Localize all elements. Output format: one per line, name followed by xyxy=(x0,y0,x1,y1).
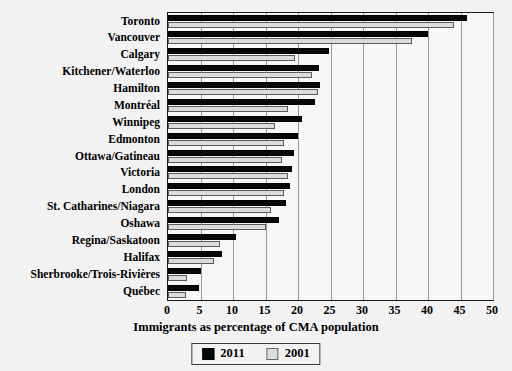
bar-2011-sherbrooke-trois-rivi-res xyxy=(168,268,201,274)
bar-rows xyxy=(168,13,493,300)
x-tick-label: 0 xyxy=(164,303,170,317)
category-label: Ottawa/Gatineau xyxy=(75,150,160,162)
x-axis-title: Immigrants as percentage of CMA populati… xyxy=(0,320,512,335)
bar-2011-montr-al xyxy=(168,99,315,105)
category-label: Québec xyxy=(123,285,160,297)
legend-entry-2001: 2001 xyxy=(267,346,310,361)
category-label: Sherbrooke/Trois-Rivières xyxy=(31,268,160,280)
x-tick-label: 35 xyxy=(389,303,401,317)
bar-2001-halifax xyxy=(168,258,214,264)
bar-2011-toronto xyxy=(168,15,467,21)
bar-2011-hamilton xyxy=(168,82,320,88)
category-label: Kitchener/Waterloo xyxy=(62,65,160,77)
bar-2011-edmonton xyxy=(168,133,298,139)
bar-2011-vancouver xyxy=(168,31,428,37)
category-label: Regina/Saskatoon xyxy=(72,234,160,246)
x-tick-label: 10 xyxy=(226,303,238,317)
category-label: Halifax xyxy=(124,251,160,263)
x-tick-label: 45 xyxy=(454,303,466,317)
legend-entry-2011: 2011 xyxy=(202,346,244,361)
bar-2011-oshawa xyxy=(168,217,279,223)
legend-label-2011: 2011 xyxy=(220,346,244,361)
x-tick-label: 50 xyxy=(486,303,498,317)
category-label: Hamilton xyxy=(113,82,160,94)
bar-2001-st-catharines-niagara xyxy=(168,207,271,213)
category-axis-labels: TorontoVancouverCalgaryKitchener/Waterlo… xyxy=(0,12,164,301)
category-label: Montréal xyxy=(114,99,160,111)
bar-2001-winnipeg xyxy=(168,123,275,129)
chart-figure: TorontoVancouverCalgaryKitchener/Waterlo… xyxy=(0,0,512,371)
bar-2001-montr-al xyxy=(168,106,288,112)
bar-2011-st-catharines-niagara xyxy=(168,200,286,206)
bar-2011-halifax xyxy=(168,251,222,257)
legend-label-2001: 2001 xyxy=(285,346,310,361)
bar-2011-victoria xyxy=(168,166,292,172)
x-tick-label: 15 xyxy=(259,303,271,317)
gridline xyxy=(493,13,494,300)
bar-2011-calgary xyxy=(168,48,329,54)
bar-2001-edmonton xyxy=(168,140,284,146)
bar-2011-qu-bec xyxy=(168,285,199,291)
category-label: Calgary xyxy=(120,48,160,60)
category-label: Oshawa xyxy=(120,217,160,229)
bar-2001-toronto xyxy=(168,22,454,28)
bar-2001-kitchener-waterloo xyxy=(168,72,312,78)
bar-2011-kitchener-waterloo xyxy=(168,65,319,71)
bar-2001-london xyxy=(168,190,284,196)
x-tick-label: 30 xyxy=(356,303,368,317)
bar-2011-regina-saskatoon xyxy=(168,234,236,240)
x-tick-label: 5 xyxy=(197,303,203,317)
legend-swatch-2011-icon xyxy=(202,348,214,360)
category-label: Winnipeg xyxy=(112,116,160,128)
bar-2001-qu-bec xyxy=(168,292,186,298)
bar-2001-oshawa xyxy=(168,224,266,230)
category-label: Edmonton xyxy=(108,133,160,145)
x-tick-label: 25 xyxy=(324,303,336,317)
plot-area xyxy=(167,12,494,301)
bar-2001-sherbrooke-trois-rivi-res xyxy=(168,275,187,281)
category-label: London xyxy=(122,183,160,195)
bar-2001-ottawa-gatineau xyxy=(168,157,282,163)
chart-legend: 2011 2001 xyxy=(191,343,320,365)
x-tick-label: 40 xyxy=(421,303,433,317)
bar-2001-calgary xyxy=(168,55,295,61)
bar-2001-vancouver xyxy=(168,38,412,44)
x-tick-label: 20 xyxy=(291,303,303,317)
bar-2011-ottawa-gatineau xyxy=(168,150,294,156)
bar-2001-regina-saskatoon xyxy=(168,241,220,247)
category-label: Toronto xyxy=(121,15,160,27)
category-label: Vancouver xyxy=(107,31,160,43)
bar-2001-victoria xyxy=(168,173,288,179)
category-label: Victoria xyxy=(120,166,160,178)
bar-2001-hamilton xyxy=(168,89,318,95)
bar-2011-london xyxy=(168,183,290,189)
category-label: St. Catharines/Niagara xyxy=(47,200,160,212)
legend-swatch-2001-icon xyxy=(267,348,279,360)
bar-2011-winnipeg xyxy=(168,116,302,122)
x-axis-tick-labels: 05101520253035404550 xyxy=(167,303,494,319)
